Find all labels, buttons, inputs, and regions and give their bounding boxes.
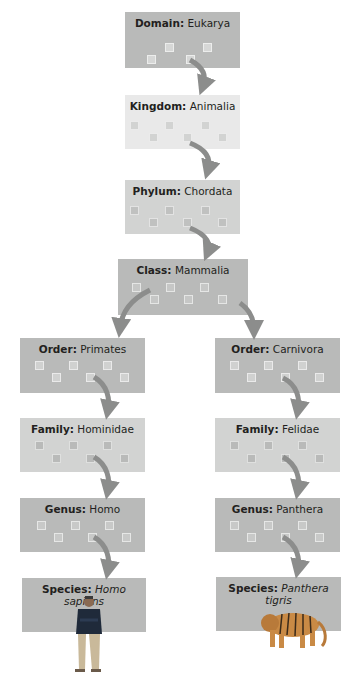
arrows-layer bbox=[0, 0, 357, 692]
human-figure bbox=[75, 596, 102, 672]
tiger bbox=[261, 613, 325, 648]
arrow-icon bbox=[94, 60, 299, 570]
